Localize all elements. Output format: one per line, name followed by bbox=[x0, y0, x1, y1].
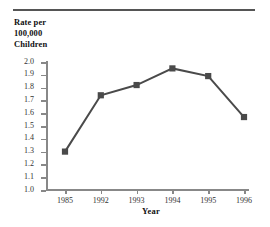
data-point-1996 bbox=[241, 114, 247, 120]
chart-figure: Rate per 100,000 Children 2.01.91.81.71.… bbox=[0, 0, 270, 227]
y-tick-label: 1.4 bbox=[24, 133, 34, 143]
data-point-1993 bbox=[134, 82, 140, 88]
y-tick-mark bbox=[41, 139, 46, 141]
data-point-1985 bbox=[62, 149, 68, 155]
y-tick-label: 1.3 bbox=[24, 146, 34, 156]
x-tick-mark-1995 bbox=[208, 190, 210, 194]
y-tick-mark bbox=[41, 88, 46, 90]
x-tick-label-1995: 1995 bbox=[200, 196, 216, 206]
plot-area: 2.01.91.81.71.61.51.41.31.21.11.0 198519… bbox=[47, 62, 248, 190]
data-point-1994 bbox=[169, 65, 175, 71]
x-tick-label-1992: 1992 bbox=[93, 196, 109, 206]
y-tick-label: 1.8 bbox=[24, 82, 34, 92]
y-axis-title-line-3: Children bbox=[14, 39, 84, 50]
x-tick-mark-1993 bbox=[137, 190, 139, 194]
x-tick-label-1994: 1994 bbox=[164, 196, 180, 206]
y-axis-title-line-2: 100,000 bbox=[14, 28, 84, 39]
y-tick-label: 2.0 bbox=[24, 57, 34, 67]
series-polyline bbox=[65, 68, 244, 151]
y-axis-title: Rate per 100,000 Children bbox=[14, 17, 84, 51]
y-axis-title-line-1: Rate per bbox=[14, 17, 84, 28]
y-tick-mark bbox=[41, 75, 46, 77]
y-tick-label: 1.9 bbox=[24, 69, 34, 79]
y-tick-label: 1.2 bbox=[24, 159, 34, 169]
y-tick-mark bbox=[41, 190, 46, 192]
x-tick-label-1993: 1993 bbox=[129, 196, 145, 206]
y-tick-mark bbox=[41, 177, 46, 179]
x-axis-title: Year bbox=[0, 206, 270, 216]
x-tick-mark-1996 bbox=[244, 190, 246, 194]
y-tick-label: 1.5 bbox=[24, 121, 34, 131]
data-point-1992 bbox=[98, 92, 104, 98]
data-series-line bbox=[47, 62, 248, 190]
x-axis-title-text: Year bbox=[142, 206, 160, 216]
x-tick-mark-1985 bbox=[65, 190, 67, 194]
y-tick-mark bbox=[41, 152, 46, 154]
y-tick-label: 1.0 bbox=[24, 185, 34, 195]
y-tick-label: 1.7 bbox=[24, 95, 34, 105]
y-tick-label: 1.1 bbox=[24, 172, 34, 182]
x-tick-label-1996: 1996 bbox=[236, 196, 252, 206]
y-tick-mark bbox=[41, 164, 46, 166]
y-tick-label: 1.6 bbox=[24, 108, 34, 118]
x-tick-mark-1994 bbox=[172, 190, 174, 194]
y-tick-mark bbox=[41, 126, 46, 128]
y-tick-mark bbox=[41, 100, 46, 102]
x-tick-mark-1992 bbox=[101, 190, 103, 194]
x-tick-label-1985: 1985 bbox=[57, 196, 73, 206]
data-point-1995 bbox=[205, 73, 211, 79]
y-tick-mark bbox=[41, 62, 46, 64]
y-tick-mark bbox=[41, 113, 46, 115]
top-divider-rule bbox=[13, 9, 255, 11]
